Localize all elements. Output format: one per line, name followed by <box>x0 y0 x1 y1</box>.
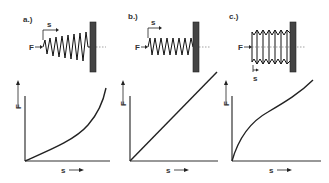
disc-spring-stack-icon <box>252 30 306 64</box>
panel-a-label: a.) <box>23 15 33 24</box>
x-axis-label-b: s <box>166 166 171 175</box>
displacement-label-b: s <box>151 18 156 27</box>
y-axis-label-b: F <box>119 101 128 106</box>
conical-spring-icon <box>43 32 90 61</box>
y-axis-label-a: F <box>14 104 23 109</box>
displacement-arrow-c: s <box>253 65 259 83</box>
x-axis-label-c: s <box>269 166 274 175</box>
displacement-arrow-a: s <box>43 20 59 40</box>
curve-degressive <box>232 80 313 161</box>
panel-b-label: b.) <box>128 12 138 21</box>
spring-characteristics-diagram: a.) s F F s b.) <box>0 0 329 183</box>
force-label-c: F <box>238 43 243 52</box>
displacement-label-a: s <box>47 20 52 29</box>
curve-linear <box>130 72 217 161</box>
y-axis-label-c: F <box>222 101 231 106</box>
panel-a: a.) s F F s <box>14 15 110 175</box>
panel-c: c.) F s F s <box>222 12 321 175</box>
force-label-a: F <box>29 43 34 52</box>
force-label-b: F <box>135 43 140 52</box>
x-axis-label-a: s <box>61 166 66 175</box>
wall-icon-b <box>193 22 199 72</box>
wall-icon-c <box>290 22 296 72</box>
wall-icon-a <box>90 22 96 72</box>
panel-b: b.) s F F s <box>119 12 218 175</box>
coil-spring-icon <box>148 38 193 55</box>
displacement-arrow-b: s <box>148 18 162 38</box>
displacement-label-c: s <box>253 74 258 83</box>
panel-c-label: c.) <box>229 12 239 21</box>
curve-progressive <box>25 88 106 161</box>
